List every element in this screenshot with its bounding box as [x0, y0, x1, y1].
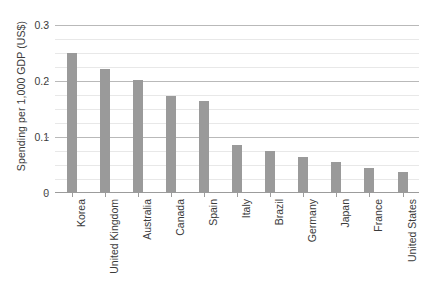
x-tick-mark	[403, 193, 404, 197]
x-tick-mark	[72, 193, 73, 197]
x-axis-category-label: Canada	[175, 199, 186, 236]
x-tick-mark	[204, 193, 205, 197]
x-axis-category-label: United States	[407, 199, 418, 262]
x-axis-category-label: Korea	[76, 199, 87, 227]
x-tick-mark	[369, 193, 370, 197]
bar	[265, 151, 275, 193]
x-axis-category-label: Spain	[208, 199, 219, 226]
x-axis-labels: KoreaUnited KingdomAustraliaCanadaSpainI…	[55, 199, 419, 287]
x-axis-category-label: Brazil	[274, 199, 285, 225]
bar	[398, 172, 408, 193]
x-axis-category-label: France	[373, 199, 384, 232]
bar	[67, 53, 77, 193]
x-tick-mark	[138, 193, 139, 197]
y-tick-mark	[45, 193, 49, 194]
bar	[133, 80, 143, 193]
x-axis-category-label: Japan	[340, 199, 351, 228]
y-tick-label: 0	[5, 188, 49, 198]
x-tick-mark	[270, 193, 271, 197]
x-tick-mark	[105, 193, 106, 197]
bar	[166, 96, 176, 193]
bar	[199, 101, 209, 193]
x-tick-mark	[171, 193, 172, 197]
x-axis-category-label: Italy	[241, 199, 252, 218]
bar	[298, 157, 308, 193]
x-tick-mark	[237, 193, 238, 197]
x-tick-mark	[336, 193, 337, 197]
y-tick-mark	[45, 81, 49, 82]
x-axis-ticks	[55, 193, 419, 198]
x-tick-mark	[303, 193, 304, 197]
bar	[331, 162, 341, 193]
x-axis-category-label: Australia	[142, 199, 153, 240]
bar	[100, 69, 110, 193]
x-axis-category-label: Germany	[307, 199, 318, 242]
y-tick-mark	[45, 25, 49, 26]
bar-chart: Spending per 1,000 GDP (US$) 00.10.20.3 …	[0, 0, 434, 287]
bar	[232, 145, 242, 193]
y-tick-label: 0.3	[5, 20, 49, 30]
bar	[364, 168, 374, 193]
y-tick-label: 0.2	[5, 76, 49, 86]
y-tick-label: 0.1	[5, 132, 49, 142]
y-axis-ticks: 00.10.20.3	[0, 25, 49, 193]
bars-series	[55, 25, 419, 193]
y-tick-mark	[45, 137, 49, 138]
x-axis-category-label: United Kingdom	[109, 199, 120, 274]
